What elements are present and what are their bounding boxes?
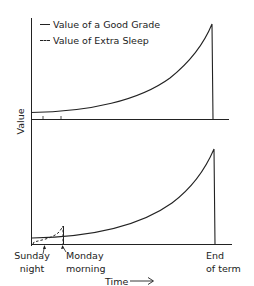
legend-item-extra-sleep: Value of Extra Sleep: [40, 35, 149, 46]
annotation-monday-morning: Monday morning: [66, 250, 106, 274]
y-axis-label: Value: [15, 108, 26, 136]
end-label: End: [206, 250, 241, 261]
monday-arrowhead: [61, 245, 64, 249]
time-label: Time: [105, 276, 128, 286]
legend-item-good-grade: Value of a Good Grade: [40, 19, 160, 30]
monday-label: Monday: [66, 250, 106, 261]
solid-line-swatch: [40, 24, 50, 25]
of-term-label: of term: [206, 263, 241, 274]
sunday-arrowhead: [43, 245, 46, 249]
legend-label-good-grade: Value of a Good Grade: [53, 19, 160, 30]
annotation-end-of-term: End of term: [206, 250, 241, 274]
night-label: night: [12, 263, 52, 274]
dashed-line-swatch: [40, 40, 50, 41]
legend-label-extra-sleep: Value of Extra Sleep: [53, 35, 149, 46]
bottom-good-grade-curve: [32, 149, 215, 245]
bottom-extra-sleep-curve: [33, 226, 63, 245]
x-axis-label: Time: [105, 276, 128, 286]
annotation-sunday-night: Sunday night: [12, 250, 52, 274]
sunday-label: Sunday: [12, 250, 52, 261]
morning-label: morning: [66, 263, 106, 274]
